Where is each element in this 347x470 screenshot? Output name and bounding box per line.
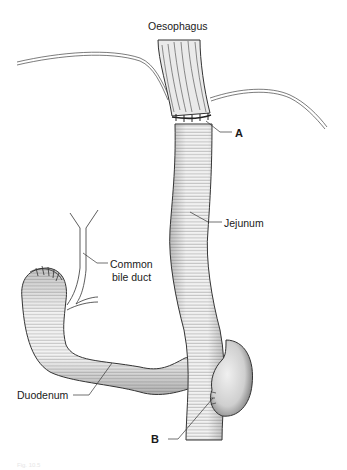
figure-caption: Fig. 10.5 bbox=[17, 462, 40, 468]
label-jejunum: Jejunum bbox=[224, 217, 264, 229]
oesophagus bbox=[158, 40, 210, 116]
label-duodenum: Duodenum bbox=[17, 389, 68, 401]
label-common-bile-duct-line1: Common bbox=[110, 258, 153, 270]
label-common-bile-duct-line2: bile duct bbox=[112, 271, 151, 283]
duodenum bbox=[22, 266, 197, 394]
label-a: A bbox=[235, 127, 243, 139]
label-oesophagus: Oesophagus bbox=[148, 20, 208, 32]
label-b: B bbox=[151, 433, 159, 445]
